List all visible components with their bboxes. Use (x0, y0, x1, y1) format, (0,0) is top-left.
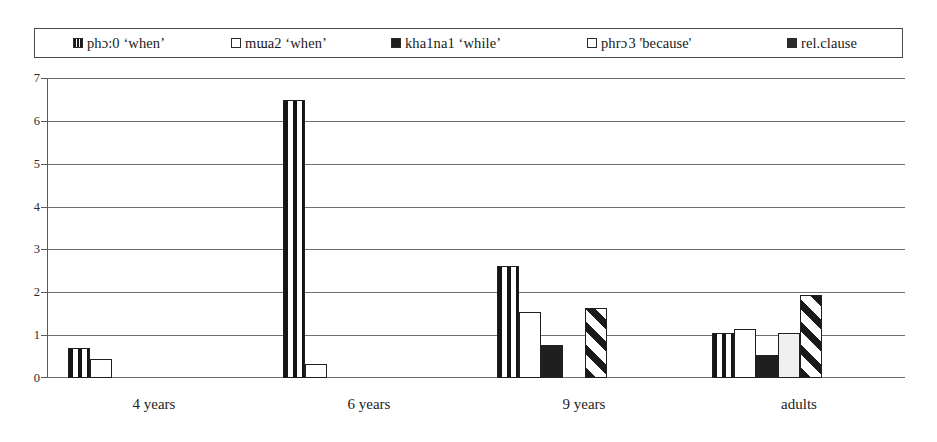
bar (585, 308, 607, 378)
y-tick-5: 5 (34, 156, 40, 171)
gridline-6 (47, 121, 905, 122)
legend-label: phɔ:0 ‘when’ (87, 36, 165, 51)
bar (90, 359, 112, 378)
legend-item-phro3-because: phrɔ 3 'because' (587, 36, 692, 51)
legend-item-kha1na1-while: kha1na1 ‘while’ (391, 36, 501, 51)
y-tick-0: 0 (34, 371, 40, 386)
y-tick-7: 7 (34, 71, 40, 86)
bar (778, 333, 800, 378)
x-label-adults: adults (781, 396, 817, 413)
light-square-swatch-icon (587, 38, 597, 48)
gridline-3 (47, 249, 905, 250)
dark-square-swatch-icon (787, 38, 797, 48)
bar (283, 100, 305, 378)
y-axis-tick-0 (41, 377, 47, 378)
bar (497, 266, 519, 378)
y-tick-2: 2 (34, 285, 40, 300)
y-tick-4: 4 (34, 199, 40, 214)
bar (712, 333, 734, 378)
y-axis-line (47, 78, 48, 378)
bar (800, 295, 822, 378)
bar (305, 364, 327, 378)
x-label-6-years: 6 years (348, 396, 391, 413)
y-axis-tick-3 (41, 249, 47, 250)
legend-label: rel.clause (801, 36, 857, 51)
black-square-swatch-icon (391, 38, 401, 48)
legend-item-pho-when: phɔ:0 ‘when’ (73, 36, 165, 51)
bar (519, 312, 541, 378)
legend-label: mɯa2 ‘when’ (245, 36, 327, 51)
legend-item-rel-clause: rel.clause (787, 36, 857, 51)
y-axis-tick-5 (41, 164, 47, 165)
gridline-4 (47, 207, 905, 208)
gridline-7 (47, 78, 905, 79)
y-tick-6: 6 (34, 113, 40, 128)
white-square-swatch-icon (231, 38, 241, 48)
legend-label: phrɔ 3 'because' (601, 36, 692, 51)
y-axis-tick-4 (41, 207, 47, 208)
y-tick-1: 1 (34, 328, 40, 343)
gridline-1 (47, 335, 905, 336)
y-axis-tick-labels: 0 1 2 3 4 5 6 7 (20, 78, 40, 378)
y-axis-tick-2 (41, 292, 47, 293)
y-axis-tick-1 (41, 335, 47, 336)
vertical-stripe-swatch-icon (73, 38, 83, 48)
bar (756, 355, 778, 378)
gridline-5 (47, 164, 905, 165)
bar (68, 348, 90, 378)
x-axis-tick-labels: 4 years 6 years 9 years adults (47, 396, 905, 424)
x-label-4-years: 4 years (133, 396, 176, 413)
y-axis-tick-6 (41, 121, 47, 122)
plot-area (47, 78, 905, 378)
legend-label: kha1na1 ‘while’ (405, 36, 501, 51)
y-axis-tick-7 (41, 78, 47, 79)
x-label-9-years: 9 years (563, 396, 606, 413)
bar (541, 345, 563, 378)
legend-item-mua2-when: mɯa2 ‘when’ (231, 36, 327, 51)
chart-legend: phɔ:0 ‘when’ mɯa2 ‘when’ kha1na1 ‘while’… (34, 28, 903, 58)
y-tick-3: 3 (34, 242, 40, 257)
bar (734, 329, 756, 378)
gridline-2 (47, 292, 905, 293)
